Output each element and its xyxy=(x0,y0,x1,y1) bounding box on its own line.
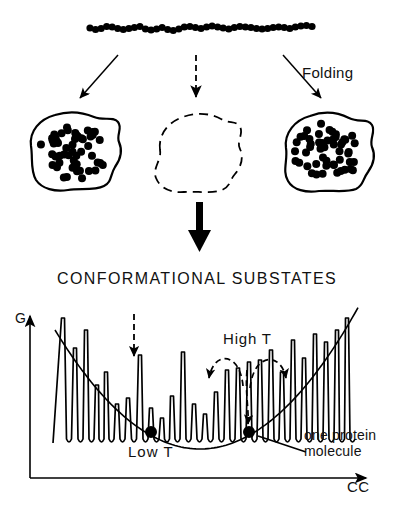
label-low-temperature: Low T xyxy=(128,443,174,460)
unfolded-chain xyxy=(86,22,315,34)
bead xyxy=(348,132,356,140)
folded-protein-left-dots xyxy=(37,124,107,183)
bead xyxy=(308,23,315,30)
bead xyxy=(329,160,337,168)
bead xyxy=(96,136,104,144)
bead xyxy=(336,156,344,164)
arrow-thick-down xyxy=(188,202,211,252)
folded-protein-right-dots xyxy=(291,120,359,179)
bead xyxy=(312,170,320,178)
bead xyxy=(37,140,45,148)
bead xyxy=(62,144,70,152)
bead xyxy=(53,163,61,171)
protein-blobs xyxy=(31,113,374,193)
leader-line-one-protein xyxy=(258,436,306,452)
page-title: CONFORMATIONAL SUBSTATES xyxy=(57,270,337,288)
bead xyxy=(347,165,355,173)
bead xyxy=(295,159,303,167)
y-axis-label: G xyxy=(15,310,26,326)
bead xyxy=(293,138,301,146)
bead xyxy=(50,130,58,138)
folding-arrows xyxy=(80,55,321,98)
x-axis-label: CC xyxy=(347,478,370,495)
bead xyxy=(89,131,97,139)
bead xyxy=(73,167,81,175)
bead xyxy=(338,138,346,146)
bead xyxy=(317,120,325,128)
arrow-fold-left xyxy=(80,55,118,98)
bead xyxy=(322,157,330,165)
bead xyxy=(330,140,338,148)
bead xyxy=(351,139,359,147)
bead xyxy=(72,131,80,139)
bead xyxy=(291,147,299,155)
bead xyxy=(64,126,72,134)
annotation-line-2: molecule xyxy=(304,443,362,459)
bead xyxy=(312,160,320,168)
protein-molecule-dot-left xyxy=(145,426,157,438)
bead xyxy=(300,132,308,140)
bead xyxy=(350,158,358,166)
bead xyxy=(63,173,71,181)
protein-molecule-dot-right xyxy=(243,426,255,438)
bead xyxy=(337,167,345,175)
bead xyxy=(320,143,328,151)
bead xyxy=(96,159,104,167)
label-high-temperature: High T xyxy=(223,330,272,347)
bead xyxy=(307,140,315,148)
bead xyxy=(91,166,99,174)
bead xyxy=(56,152,64,160)
bead xyxy=(78,174,86,182)
bead xyxy=(335,147,343,155)
bead xyxy=(344,149,352,157)
unfolded-blob-center-outline xyxy=(155,114,242,192)
label-folding: Folding xyxy=(302,64,353,81)
annotation-one-protein-molecule: one proteinmolecule xyxy=(304,427,376,459)
bead xyxy=(88,152,96,160)
annotation-line-1: one protein xyxy=(304,427,376,443)
bead xyxy=(303,162,311,170)
bead xyxy=(332,130,340,138)
bead xyxy=(315,130,323,138)
bead xyxy=(48,150,56,158)
bead xyxy=(84,142,92,150)
